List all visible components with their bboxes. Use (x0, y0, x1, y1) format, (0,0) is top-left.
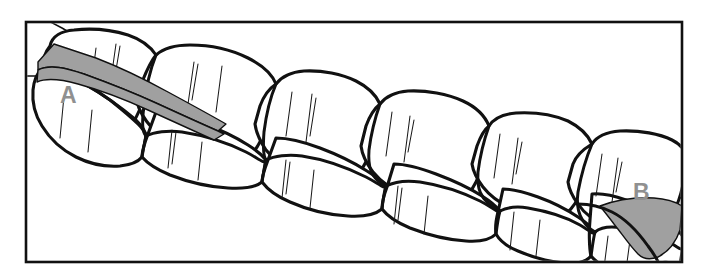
figure-root: A B (0, 0, 704, 280)
label-b: B (633, 179, 650, 205)
block-diagram-svg: A B (0, 0, 704, 280)
label-a: A (60, 82, 77, 108)
